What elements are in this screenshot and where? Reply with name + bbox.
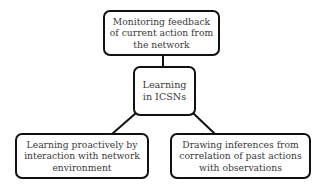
node-learning-proactively: Learning proactively by interaction with… bbox=[15, 133, 149, 179]
connector-center-to-left bbox=[112, 113, 136, 134]
node-text-line: in ICSNs bbox=[143, 91, 187, 104]
node-monitoring-feedback: Monitoring feedback of current action fr… bbox=[103, 10, 220, 56]
node-drawing-inferences: Drawing inferences from correlation of p… bbox=[170, 133, 311, 179]
node-text-line: with observations bbox=[179, 162, 301, 174]
node-text-line: correlation of past actions bbox=[179, 150, 301, 162]
diagram-canvas: Monitoring feedback of current action fr… bbox=[0, 0, 325, 192]
node-text-line: Monitoring feedback bbox=[110, 16, 213, 28]
node-learning-in-icsns: Learning in ICSNs bbox=[133, 66, 196, 116]
node-text-line: environment bbox=[24, 162, 140, 174]
node-text-line: Learning proactively by bbox=[24, 139, 140, 151]
node-text-line: Learning bbox=[143, 79, 187, 92]
node-text-line: interaction with network bbox=[24, 150, 140, 162]
node-text-line: of current action from bbox=[110, 27, 213, 39]
node-text-line: the network bbox=[110, 39, 213, 51]
node-text-line: Drawing inferences from bbox=[179, 139, 301, 151]
connector-center-to-right bbox=[193, 113, 215, 134]
